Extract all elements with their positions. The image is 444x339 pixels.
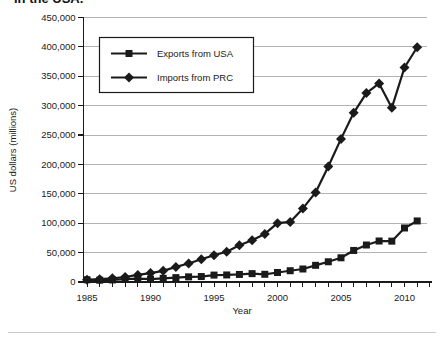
data-point-exports-from-usa: [261, 271, 268, 278]
data-point-imports-from-prc: [209, 250, 219, 260]
data-point-exports-from-usa: [388, 238, 395, 245]
data-point-exports-from-usa: [274, 269, 281, 276]
y-axis-tick-label: 350,000: [41, 70, 75, 81]
data-point-imports-from-prc: [196, 254, 206, 264]
y-axis-title: US dollars (millions): [7, 108, 18, 192]
data-point-exports-from-usa: [376, 238, 383, 245]
data-point-imports-from-prc: [412, 42, 422, 52]
data-point-exports-from-usa: [223, 271, 230, 278]
data-point-exports-from-usa: [198, 273, 205, 280]
legend-label: Exports from USA: [157, 48, 234, 59]
y-axis-tick-label: 250,000: [41, 129, 75, 140]
page-divider-line: [8, 332, 436, 333]
legend-label: Imports from PRC: [157, 72, 233, 83]
data-point-imports-from-prc: [247, 235, 257, 245]
data-point-imports-from-prc: [158, 266, 168, 276]
legend-box: [100, 38, 254, 93]
data-point-imports-from-prc: [184, 258, 194, 268]
data-point-exports-from-usa: [312, 262, 319, 269]
y-axis-tick-label: 300,000: [41, 100, 75, 111]
y-axis-tick-label: 400,000: [41, 41, 75, 52]
x-axis-tick-label: 1990: [140, 292, 161, 303]
data-point-imports-from-prc: [234, 240, 244, 250]
data-point-exports-from-usa: [325, 258, 332, 265]
data-point-imports-from-prc: [387, 103, 397, 113]
data-point-exports-from-usa: [185, 273, 192, 280]
data-point-imports-from-prc: [400, 62, 410, 72]
trade-line-chart: 050,000100,000150,000200,000250,000300,0…: [0, 0, 444, 339]
x-axis-tick-label: 1985: [76, 292, 97, 303]
x-axis: 198519901995200020052010: [76, 282, 431, 303]
data-point-exports-from-usa: [299, 265, 306, 272]
y-axis-tick-label: 100,000: [41, 217, 75, 228]
data-point-exports-from-usa: [363, 242, 370, 249]
data-point-exports-from-usa: [172, 274, 179, 281]
data-point-imports-from-prc: [222, 247, 232, 257]
data-point-exports-from-usa: [236, 271, 243, 278]
data-point-exports-from-usa: [401, 224, 408, 231]
data-point-exports-from-usa: [249, 270, 256, 277]
y-axis: 050,000100,000150,000200,000250,000300,0…: [41, 12, 83, 288]
data-point-exports-from-usa: [338, 254, 345, 261]
y-axis-tick-label: 150,000: [41, 188, 75, 199]
legend-key-square-icon: [126, 50, 133, 57]
legend: Exports from USAImports from PRC: [100, 38, 254, 93]
x-axis-tick-label: 1995: [203, 292, 224, 303]
y-axis-tick-label: 200,000: [41, 159, 75, 170]
y-axis-tick-label: 450,000: [41, 12, 75, 23]
data-point-imports-from-prc: [171, 262, 181, 272]
data-point-exports-from-usa: [287, 267, 294, 274]
y-axis-tick-label: 50,000: [46, 247, 75, 258]
x-axis-tick-label: 2010: [394, 292, 415, 303]
y-axis-tick-label: 0: [70, 276, 75, 287]
x-axis-title: Year: [232, 305, 251, 316]
data-point-imports-from-prc: [323, 161, 333, 171]
data-point-exports-from-usa: [160, 275, 167, 282]
data-point-exports-from-usa: [211, 272, 218, 279]
x-axis-tick-label: 2005: [330, 292, 351, 303]
x-axis-tick-label: 2000: [267, 292, 288, 303]
data-point-exports-from-usa: [414, 217, 421, 224]
data-point-exports-from-usa: [350, 247, 357, 254]
